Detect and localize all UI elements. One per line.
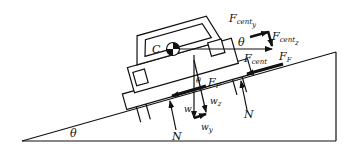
fcent-y-arrow xyxy=(250,32,268,37)
label-theta-base: θ xyxy=(70,127,77,140)
label-n-right: N xyxy=(243,108,254,121)
label-w: w xyxy=(184,104,192,114)
label-wz: wz xyxy=(210,96,222,108)
label-n-left: N xyxy=(171,130,182,143)
label-wy: wy xyxy=(201,122,214,134)
center-of-mass-icon xyxy=(167,43,180,56)
label-theta-mid: θ xyxy=(196,76,201,85)
label-fcent-z: Fcentz xyxy=(271,30,299,47)
diagram-canvas: C Fcenty Fcentz Fcent FF FF θ θ θ N N w … xyxy=(0,0,355,153)
label-theta-top: θ xyxy=(238,36,245,49)
label-fcent: Fcent xyxy=(243,52,267,66)
svg-text:Fcentz: Fcentz xyxy=(271,30,299,47)
wy-arrow xyxy=(194,114,206,118)
label-ff-right: FF xyxy=(278,50,293,64)
label-fcent-y: Fcenty xyxy=(228,12,257,29)
normal-right-arrow xyxy=(241,81,247,110)
force-diagram: C Fcenty Fcentz Fcent FF FF θ θ θ N N w … xyxy=(0,0,355,153)
svg-text:FF: FF xyxy=(278,50,293,64)
normal-left-arrow xyxy=(170,101,176,130)
svg-text:wy: wy xyxy=(201,122,214,134)
svg-text:Fcent: Fcent xyxy=(243,52,267,66)
svg-text:wz: wz xyxy=(210,96,222,108)
label-c: C xyxy=(152,43,161,56)
svg-text:Fcenty: Fcenty xyxy=(228,12,257,29)
car-body xyxy=(108,9,256,125)
